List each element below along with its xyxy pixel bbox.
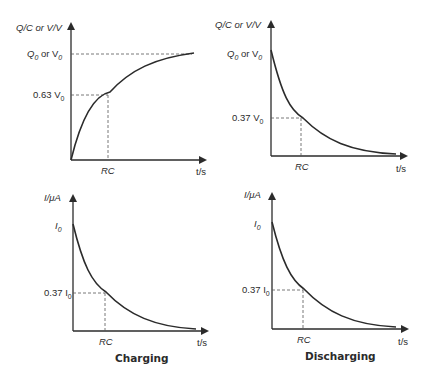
x-axis-label: t/s <box>396 163 406 174</box>
037i0-label: 0.37 I0 <box>44 287 72 300</box>
y-axis-label: I/μA <box>44 192 61 203</box>
y-axis-label: Q/C or V/V <box>215 19 263 30</box>
rc-graphs-figure: Q/C or V/V Q0 or V0 0.63 V0 RC t/s Q/C o… <box>0 0 428 368</box>
037v0-label: 0.37 V0 <box>232 112 263 125</box>
x-axis-label: t/s <box>398 336 408 347</box>
charging-curve <box>71 53 194 160</box>
y-axis-label: I/μA <box>244 189 261 200</box>
panel-charging-voltage: Q/C or V/V Q0 or V0 0.63 V0 RC t/s <box>16 22 206 177</box>
panel-charging-current: I/μA I0 0.37 I0 RC t/s Charging <box>44 192 207 364</box>
caption-discharging: Discharging <box>305 350 376 362</box>
panel-discharging-voltage: Q/C or V/V Q0 or V0 0.37 V0 RC t/s <box>215 19 406 174</box>
rc-label: RC <box>295 161 309 172</box>
charging-current-curve <box>73 224 196 329</box>
q0-label: Q0 or V0 <box>27 48 62 61</box>
rc-label: RC <box>297 334 311 345</box>
i0-label: I0 <box>254 218 261 231</box>
x-axis-label: t/s <box>196 166 206 177</box>
q0-label: Q0 or V0 <box>227 48 262 61</box>
caption-charging: Charging <box>115 352 169 364</box>
y-axis-label: Q/C or V/V <box>16 22 64 33</box>
rc-label: RC <box>99 336 113 347</box>
panel-discharging-current: I/μA I0 0.37 I0 RC t/s Discharging <box>242 189 408 362</box>
rc-label: RC <box>101 165 115 176</box>
037i0-label: 0.37 I0 <box>242 284 270 297</box>
063v0-label: 0.63 V0 <box>33 89 64 102</box>
x-axis-label: t/s <box>197 337 207 348</box>
discharging-curve <box>271 50 396 154</box>
i0-label: I0 <box>55 220 62 233</box>
discharging-current-curve <box>272 222 396 327</box>
